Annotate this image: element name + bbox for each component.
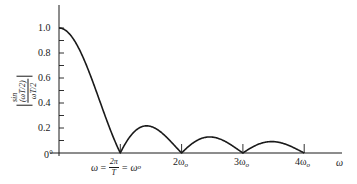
omega-symbol: ω [91,163,98,173]
sub-o: o [246,161,250,169]
x-ticks [120,144,304,153]
x-tick-label-3omega: 3ωo [234,157,249,169]
sub-o: o [185,161,189,169]
frac-den: T [111,168,115,177]
sub-o: o [138,164,142,171]
y-tick-label-1.0: 1.0 [38,23,51,33]
x-tick-label-2omega: 2ωo [173,157,188,169]
x3-text: 3ω [234,156,246,167]
frac-num: 2π [109,158,119,168]
x-tick-label-omega-o: ω = 2π T = ωo [91,158,141,177]
y-tick-label-0: 0° [44,150,53,160]
abs-bar-left [16,105,32,106]
sub-o: o [307,161,311,169]
y-tick-label-0.4: 0.4 [38,98,51,108]
two-pi-over-t: 2π T [109,158,119,177]
y-label-numerator: sin (ωT/2) [11,79,29,103]
equals-omega: = ω [119,163,138,173]
x4-text: 4ω [295,156,307,167]
axes [50,5,342,156]
y-tick-label-0.6: 0.6 [38,73,51,83]
y-label-denominator: ωT/2 [29,83,38,99]
abs-bar-right [16,76,32,77]
sinc-curve [59,28,304,153]
x-tick-label-4omega: 4ωo [295,157,310,169]
x-axis-label: ω [336,158,343,168]
equals-sign: = [98,163,109,173]
x2-text: 2ω [173,156,185,167]
y-tick-label-0.8: 0.8 [38,48,51,58]
y-ticks [59,28,64,141]
y-tick-label-0.2: 0.2 [38,123,51,133]
y-axis-label: sin (ωT/2) ωT/2 [13,62,35,120]
